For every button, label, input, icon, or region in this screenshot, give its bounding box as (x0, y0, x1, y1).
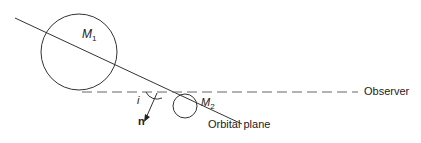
star-m1-circle (41, 14, 117, 90)
normal-vector-arrow (146, 93, 157, 118)
observer-label: Observer (364, 85, 409, 97)
m1-label: M1 (82, 27, 96, 43)
inclination-angle-arc (146, 92, 162, 99)
orbital-plane-label: Orbital plane (208, 118, 270, 130)
angle-label: i (137, 94, 139, 106)
m2-label: M2 (201, 96, 215, 111)
normal-label: n (138, 115, 145, 127)
